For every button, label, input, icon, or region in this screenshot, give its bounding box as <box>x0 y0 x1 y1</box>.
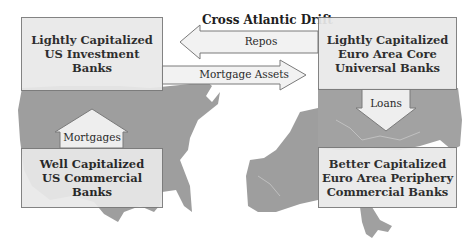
mortgage-assets-label: Mortgage Assets <box>196 68 292 80</box>
node-label-line: Euro Area Periphery <box>322 171 453 185</box>
node-label-line: Lightly Capitalized <box>327 33 449 47</box>
diagram-title: Cross Atlantic Drift <box>202 13 333 27</box>
node-label-line: Universal Banks <box>327 61 449 75</box>
node-label-line: Banks <box>31 61 153 75</box>
node-label-line: US Investment <box>31 47 153 61</box>
node-label-line: Better Capitalized <box>322 157 453 171</box>
loans-label: Loans <box>366 97 406 109</box>
node-euro-periphery-banks: Better Capitalized Euro Area Periphery C… <box>318 147 457 208</box>
node-euro-core-banks: Lightly Capitalized Euro Area Core Unive… <box>318 17 457 90</box>
node-label-line: Euro Area Core <box>327 47 449 61</box>
node-label-line: Lightly Capitalized <box>31 33 153 47</box>
node-label-line: US Commercial <box>40 171 144 185</box>
node-label-line: Well Capitalized <box>40 157 144 171</box>
node-label-line: Commercial Banks <box>322 185 453 199</box>
node-label-line: Banks <box>40 185 144 199</box>
france-spain-map <box>246 108 318 212</box>
italy-map <box>360 207 392 238</box>
node-us-commercial-banks: Well Capitalized US Commercial Banks <box>21 148 163 208</box>
repos-label: Repos <box>236 35 286 47</box>
mortgages-label: Mortgages <box>62 131 122 143</box>
node-us-investment-banks: Lightly Capitalized US Investment Banks <box>21 17 163 91</box>
